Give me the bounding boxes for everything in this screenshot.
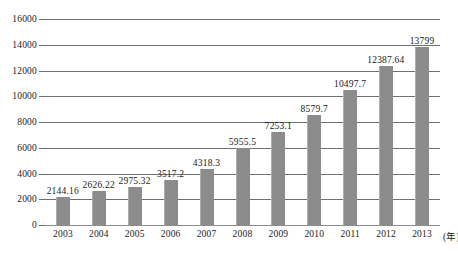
bar-value-label: 3517.2 — [157, 169, 184, 179]
bar: 7253.1 — [271, 132, 285, 225]
x-axis-tick-label: 2007 — [197, 229, 217, 239]
bar: 4318.3 — [200, 169, 214, 225]
x-axis-tick-label: 2004 — [89, 229, 109, 239]
x-axis-tick-label: 2011 — [340, 229, 359, 239]
y-axis-tick-label: 8000 — [17, 117, 37, 127]
x-axis-tick-label: 2008 — [233, 229, 253, 239]
plot-area: 0200040006000800010000120001400016000 21… — [45, 19, 440, 225]
y-axis-tick — [39, 122, 45, 123]
bar-value-label: 5955.5 — [229, 137, 256, 147]
bar: 13799 — [415, 47, 429, 225]
bar-value-label: 7253.1 — [265, 121, 292, 131]
bar-value-label: 8579.7 — [301, 104, 328, 114]
y-axis-tick-label: 12000 — [12, 66, 37, 76]
y-axis-tick-label: 6000 — [17, 143, 37, 153]
y-axis-tick-label: 10000 — [12, 91, 37, 101]
x-axis-unit-label: (年) — [443, 229, 458, 243]
y-axis-tick-label: 14000 — [12, 40, 37, 50]
bar: 3517.2 — [164, 180, 178, 225]
bar-value-label: 2144.16 — [47, 186, 79, 196]
x-axis-tick-label: 2006 — [161, 229, 181, 239]
x-axis-tick-label: 2003 — [53, 229, 73, 239]
y-axis-tick — [39, 148, 45, 149]
bar-value-label: 13799 — [410, 36, 435, 46]
y-axis-tick — [39, 45, 45, 46]
bar: 8579.7 — [307, 115, 321, 225]
bar-value-label: 12387.64 — [367, 55, 404, 65]
y-axis-tick — [39, 225, 45, 226]
y-axis-tick-label: 0 — [32, 220, 37, 230]
bar: 2975.32 — [128, 187, 142, 225]
gridline — [45, 225, 440, 226]
bar: 2144.16 — [56, 197, 70, 225]
bar-value-label: 2626.22 — [83, 180, 115, 190]
x-axis-tick-label: 2009 — [269, 229, 289, 239]
x-axis-tick-label: 2013 — [412, 229, 432, 239]
y-axis-tick — [39, 71, 45, 72]
bar: 10497.7 — [343, 90, 357, 225]
y-axis-tick-label: 16000 — [12, 14, 37, 24]
y-axis-tick — [39, 19, 45, 20]
gridline — [45, 45, 440, 46]
bar-chart: 0200040006000800010000120001400016000 21… — [0, 0, 458, 262]
x-axis-tick-label: 2012 — [376, 229, 396, 239]
bar-value-label: 10497.7 — [334, 79, 366, 89]
x-axis: (年) 200320042005200620072008200920102011… — [45, 229, 440, 245]
bar: 5955.5 — [236, 148, 250, 225]
y-axis-tick-label: 4000 — [17, 169, 37, 179]
bar-value-label: 2975.32 — [118, 176, 150, 186]
bar: 12387.64 — [379, 66, 393, 225]
y-axis-tick — [39, 174, 45, 175]
y-axis-tick-label: 2000 — [17, 194, 37, 204]
y-axis-tick — [39, 96, 45, 97]
bar-value-label: 4318.3 — [193, 158, 220, 168]
x-axis-tick-label: 2005 — [125, 229, 145, 239]
x-axis-tick-label: 2010 — [304, 229, 324, 239]
gridline — [45, 19, 440, 20]
bar: 2626.22 — [92, 191, 106, 225]
y-axis-tick — [39, 199, 45, 200]
